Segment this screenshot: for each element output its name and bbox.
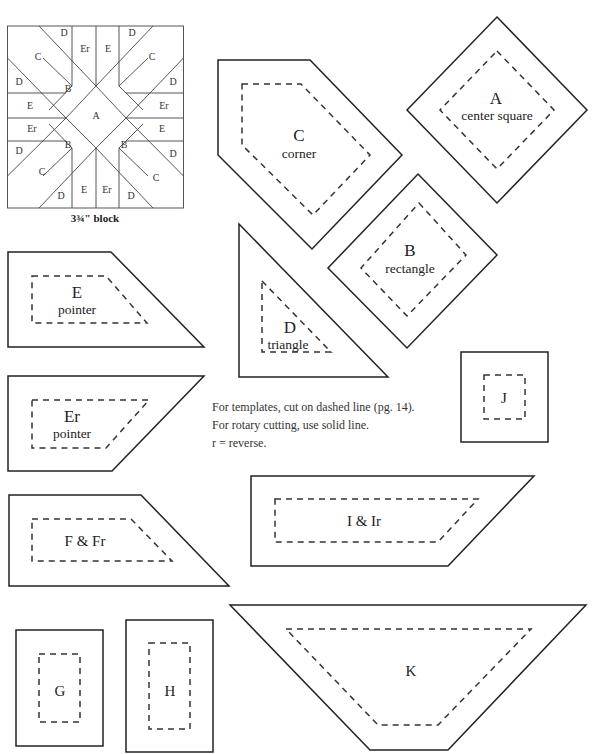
template-E-name: pointer	[58, 302, 97, 317]
template-D-name: triangle	[267, 337, 308, 352]
block-label: Er	[102, 184, 112, 195]
block-label: B	[121, 139, 128, 150]
block-label: Er	[27, 123, 37, 134]
block-label: D	[57, 190, 64, 201]
template-Er-outline	[8, 376, 204, 471]
template-Er-pointer: Er pointer	[8, 376, 204, 471]
template-Er-letter: Er	[64, 407, 80, 426]
block-label: A	[92, 110, 100, 121]
template-I-outline	[251, 476, 534, 566]
template-Er-name: pointer	[53, 426, 92, 441]
block-label: D	[15, 76, 22, 87]
block-label: E	[81, 184, 87, 195]
template-K: K	[230, 605, 586, 750]
template-C-name: corner	[282, 146, 317, 161]
note-reverse: r = reverse.	[212, 434, 415, 452]
note-templates: For templates, cut on dashed line (pg. 1…	[212, 398, 415, 416]
block-label: D	[128, 27, 135, 38]
template-I-letter: I & Ir	[347, 513, 381, 529]
block-label: D	[60, 27, 67, 38]
block-label: D	[127, 190, 134, 201]
template-I-Ir: I & Ir	[251, 476, 534, 566]
template-B-name: rectangle	[385, 261, 434, 276]
block-label: B	[65, 83, 72, 94]
template-F-Fr: F & Fr	[9, 495, 229, 586]
block-label: E	[27, 100, 33, 111]
cutting-notes: For templates, cut on dashed line (pg. 1…	[212, 398, 415, 452]
template-A-name: center square	[461, 108, 533, 123]
block-label: D	[15, 145, 22, 156]
note-rotary: For rotary cutting, use solid line.	[212, 416, 415, 434]
block-diagram: D C D Er E D C D E Er Er E A B B B D C D…	[8, 26, 184, 208]
block-label: Er	[80, 43, 90, 54]
template-F-outline	[9, 495, 229, 586]
template-E-pointer: E pointer	[8, 252, 204, 347]
template-G-letter: G	[55, 683, 66, 699]
template-F-letter: F & Fr	[65, 533, 106, 549]
template-D-letter: D	[284, 318, 296, 337]
template-H: H	[126, 620, 213, 752]
template-G: G	[16, 630, 103, 746]
block-label: C	[149, 51, 156, 62]
block-label: D	[169, 76, 176, 87]
block-label: B	[65, 139, 72, 150]
template-C-letter: C	[293, 126, 304, 145]
block-label: D	[169, 148, 176, 159]
block-label: E	[105, 43, 111, 54]
block-label: C	[39, 166, 46, 177]
template-J-letter: J	[501, 390, 507, 406]
template-H-letter: H	[165, 683, 176, 699]
template-E-letter: E	[72, 283, 82, 302]
template-A-center-square: A center square	[407, 17, 587, 203]
block-label: Er	[159, 100, 169, 111]
template-K-letter: K	[406, 663, 417, 679]
template-E-outline	[8, 252, 204, 347]
template-B-letter: B	[404, 241, 415, 260]
block-label: E	[159, 123, 165, 134]
block-label: C	[153, 172, 160, 183]
template-A-letter: A	[490, 89, 503, 108]
template-J: J	[461, 352, 548, 442]
block-caption: 3¾" block	[40, 212, 150, 224]
block-label: C	[35, 51, 42, 62]
